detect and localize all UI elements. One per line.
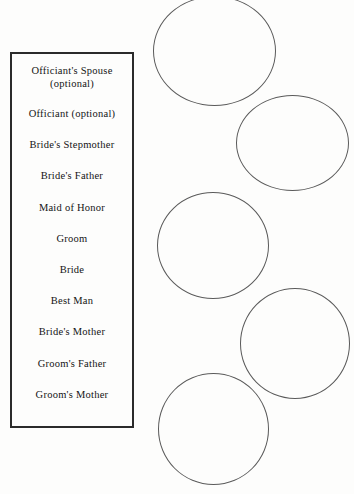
roster-row-label: Groom xyxy=(57,233,88,245)
roster-row: Bride xyxy=(12,264,132,295)
roster-row-label: Groom's Father xyxy=(38,358,107,370)
person-circle-1 xyxy=(153,0,276,106)
roster-row: Maid of Honor xyxy=(12,202,132,233)
roster-row: Officiant's Spouse (optional) xyxy=(12,65,132,108)
roster-row-label: Bride's Father xyxy=(41,170,103,182)
roster-row: Groom's Father xyxy=(12,358,132,389)
roster-row-label: Maid of Honor xyxy=(39,202,105,214)
roster-row: Best Man xyxy=(12,295,132,326)
person-circle-2 xyxy=(236,95,349,191)
roster-row-label: Bride xyxy=(60,264,85,276)
person-circle-3 xyxy=(157,192,269,299)
roster-row-sublabel: (optional) xyxy=(50,77,94,90)
person-circle-4 xyxy=(240,288,350,399)
roster-row: Groom's Mother xyxy=(12,389,132,420)
roster-row-label: Bride's Stepmother xyxy=(30,139,115,151)
roster-row-label: Best Man xyxy=(51,295,94,307)
roster-row-label: Groom's Mother xyxy=(36,389,109,401)
roster-row-label: Bride's Mother xyxy=(39,326,105,338)
roster-row: Bride's Stepmother xyxy=(12,139,132,170)
roster-box: Officiant's Spouse (optional) Officiant … xyxy=(10,52,134,428)
roster-row-label: Officiant's Spouse xyxy=(31,65,112,77)
person-circle-5 xyxy=(158,373,269,485)
roster-row: Groom xyxy=(12,233,132,264)
roster-row: Bride's Father xyxy=(12,170,132,201)
roster-row-label: Officiant (optional) xyxy=(29,108,116,120)
roster-row: Officiant (optional) xyxy=(12,108,132,139)
roster-row: Bride's Mother xyxy=(12,326,132,357)
diagram-page: Officiant's Spouse (optional) Officiant … xyxy=(0,0,354,494)
